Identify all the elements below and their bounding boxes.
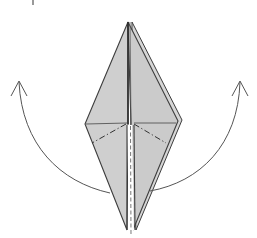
origami-diagram: [0, 0, 257, 238]
right-half-paper: [128, 22, 178, 230]
hidden-edge-dashed: [131, 126, 132, 236]
cropped-mark: [32, 0, 34, 5]
